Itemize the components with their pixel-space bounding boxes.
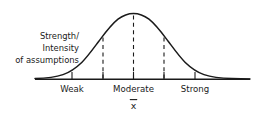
x-axis-label-strong: Strong xyxy=(181,84,209,94)
bell-curve-diagram: Strength/ Intensity of assumptions Weak … xyxy=(0,0,265,120)
mean-symbol-x-bar: x xyxy=(130,100,137,111)
y-axis-label-line-3: of assumptions xyxy=(15,55,79,65)
mean-symbol-letter: x xyxy=(131,100,137,111)
y-axis-label-line-1: Strength/ xyxy=(40,31,79,41)
x-axis-label-moderate: Moderate xyxy=(113,84,154,94)
bell-curve-figure: Strength/ Intensity of assumptions Weak … xyxy=(0,0,265,120)
x-axis-label-weak: Weak xyxy=(60,84,84,94)
y-axis-label-line-2: Intensity xyxy=(43,43,79,53)
